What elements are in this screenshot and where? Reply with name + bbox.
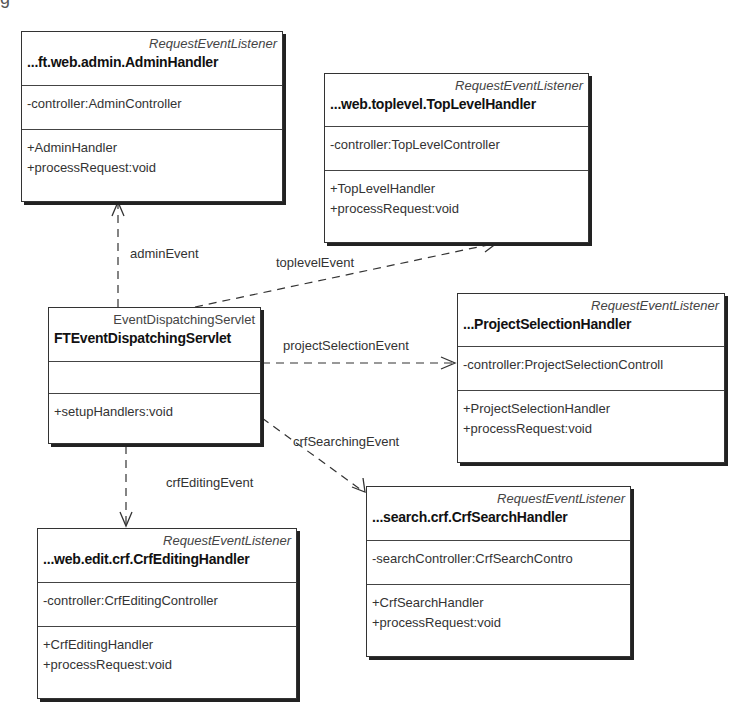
class-operations: +CrfSearchHandler +processRequest:void [367, 585, 630, 633]
class-name: FTEventDispatchingServlet [54, 328, 255, 348]
class-box-admin-handler[interactable]: RequestEventListener ...ft.web.admin.Adm… [21, 31, 283, 202]
class-stereotype: RequestEventListener [43, 532, 291, 549]
class-attributes: -controller:ProjectSelectionControll [458, 347, 724, 391]
edge-label-crf-editing-event: crfEditingEvent [166, 475, 253, 491]
edge-label-toplevel-event: toplevelEvent [276, 255, 354, 271]
class-operations: +setupHandlers:void [49, 394, 260, 422]
attribute: -controller:CrfEditingController [43, 592, 291, 609]
edge-toplevel-event [195, 243, 497, 307]
class-operations: +ProjectSelectionHandler +processRequest… [458, 391, 724, 439]
class-box-project-selection-handler[interactable]: RequestEventListener ...ProjectSelection… [457, 293, 725, 463]
edge-label-project-selection-event: projectSelectionEvent [283, 338, 409, 354]
cropped-text-fragment: g [0, 0, 12, 4]
class-attributes: -controller:CrfEditingController [38, 583, 296, 627]
class-header: RequestEventListener ...web.toplevel.Top… [325, 74, 588, 127]
operation: +processRequest:void [43, 655, 291, 675]
edge-label-crf-searching-event: crfSearchingEvent [293, 434, 399, 450]
class-stereotype: RequestEventListener [372, 490, 625, 507]
attribute: -controller:TopLevelController [330, 136, 583, 153]
arrowhead-project-selection [441, 357, 455, 369]
attribute: -controller:ProjectSelectionControll [463, 356, 719, 373]
class-stereotype: RequestEventListener [27, 35, 277, 52]
class-name: ...web.edit.crf.CrfEditingHandler [43, 549, 291, 569]
class-attributes-empty [49, 362, 260, 394]
arrowhead-admin [112, 202, 124, 216]
class-operations: +CrfEditingHandler +processRequest:void [38, 627, 296, 675]
class-name: ...web.toplevel.TopLevelHandler [330, 94, 583, 114]
operation: +AdminHandler [27, 138, 277, 158]
arrowhead-crf-editing [120, 512, 132, 526]
class-attributes: -controller:TopLevelController [325, 127, 588, 171]
operation: +processRequest:void [372, 613, 625, 633]
class-header: RequestEventListener ...ft.web.admin.Adm… [22, 32, 282, 86]
class-box-crf-search-handler[interactable]: RequestEventListener ...search.crf.CrfSe… [366, 486, 631, 657]
attribute: -searchController:CrfSearchContro [372, 550, 625, 567]
edge-label-admin-event: adminEvent [130, 246, 199, 262]
operation: +TopLevelHandler [330, 179, 583, 199]
edge-crf-searching-event [262, 418, 364, 492]
attribute: -controller:AdminController [27, 95, 277, 112]
class-stereotype: RequestEventListener [330, 77, 583, 94]
class-name: ...ProjectSelectionHandler [463, 314, 719, 334]
class-box-event-dispatching-servlet[interactable]: EventDispatchingServlet FTEventDispatchi… [48, 307, 261, 444]
arrowhead-crf-searching [352, 478, 365, 492]
class-header: RequestEventListener ...search.crf.CrfSe… [367, 487, 630, 541]
class-stereotype: RequestEventListener [463, 297, 719, 314]
operation: +CrfEditingHandler [43, 635, 291, 655]
class-attributes: -controller:AdminController [22, 86, 282, 130]
class-operations: +TopLevelHandler +processRequest:void [325, 171, 588, 219]
class-attributes: -searchController:CrfSearchContro [367, 541, 630, 585]
class-header: RequestEventListener ...ProjectSelection… [458, 294, 724, 347]
class-superclass: EventDispatchingServlet [54, 311, 255, 328]
operation: +CrfSearchHandler [372, 593, 625, 613]
class-name: ...search.crf.CrfSearchHandler [372, 507, 625, 527]
class-header: RequestEventListener ...web.edit.crf.Crf… [38, 529, 296, 583]
class-box-crf-editing-handler[interactable]: RequestEventListener ...web.edit.crf.Crf… [37, 528, 297, 699]
operation: +ProjectSelectionHandler [463, 399, 719, 419]
operation: +setupHandlers:void [54, 402, 255, 422]
operation: +processRequest:void [463, 419, 719, 439]
uml-diagram-canvas: g RequestEventListener ...ft.web.admi [0, 0, 748, 724]
class-name: ...ft.web.admin.AdminHandler [27, 52, 277, 72]
class-header: EventDispatchingServlet FTEventDispatchi… [49, 308, 260, 362]
operation: +processRequest:void [27, 158, 277, 178]
operation: +processRequest:void [330, 199, 583, 219]
class-operations: +AdminHandler +processRequest:void [22, 130, 282, 178]
class-box-toplevel-handler[interactable]: RequestEventListener ...web.toplevel.Top… [324, 73, 589, 243]
